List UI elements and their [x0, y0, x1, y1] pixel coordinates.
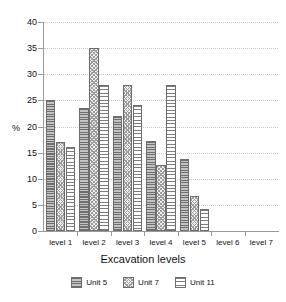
x-axis-tick: [178, 231, 179, 236]
y-axis-tick: [38, 153, 44, 154]
plot-area: [44, 22, 278, 231]
legend-item: Unit 7: [123, 277, 159, 288]
bar: [123, 85, 133, 231]
legend-swatch-icon: [71, 277, 82, 288]
y-axis-tick-label: 35: [27, 44, 37, 53]
bar: [166, 85, 176, 231]
y-axis-tick-label: 10: [27, 175, 37, 184]
x-axis-tick-label: level 4: [149, 238, 172, 247]
bar: [46, 100, 56, 231]
y-axis-tick-label: 25: [27, 96, 37, 105]
bar: [133, 105, 143, 231]
x-axis-tick-label: level 1: [49, 238, 72, 247]
x-axis-tick: [144, 231, 145, 236]
y-axis-tick-label: 15: [27, 149, 37, 158]
bar: [89, 48, 99, 231]
x-axis-tick: [111, 231, 112, 236]
y-axis-title: %: [12, 124, 20, 133]
bar: [200, 209, 210, 231]
gridline: [44, 74, 278, 75]
y-axis-tick-label: 40: [27, 18, 37, 27]
bar: [66, 147, 76, 231]
x-axis-title: Excavation levels: [0, 253, 286, 266]
y-axis-tick-label: 20: [27, 123, 37, 132]
x-axis-tick-label: level 2: [83, 238, 106, 247]
y-axis-tick-label: 5: [32, 201, 37, 210]
y-axis-tick: [38, 205, 44, 206]
x-axis-tick-label: level 7: [250, 238, 273, 247]
y-axis-tick-label: 30: [27, 70, 37, 79]
bar: [79, 108, 89, 231]
legend-item: Unit 5: [71, 277, 107, 288]
x-axis-tick-label: level 5: [183, 238, 206, 247]
gridline: [44, 100, 278, 101]
x-axis-tick: [245, 231, 246, 236]
bar: [146, 141, 156, 231]
bar: [190, 196, 200, 231]
legend-item: Unit 11: [175, 277, 215, 288]
y-axis-tick: [38, 74, 44, 75]
legend-swatch-icon: [175, 277, 186, 288]
gridline: [44, 48, 278, 49]
x-axis-tick-label: level 3: [116, 238, 139, 247]
legend-label: Unit 5: [86, 278, 107, 287]
y-axis-tick-label: 0: [32, 227, 37, 236]
y-axis-tick: [38, 22, 44, 23]
x-axis-tick: [77, 231, 78, 236]
bar: [99, 85, 109, 231]
y-axis-tick: [38, 100, 44, 101]
y-axis-tick: [38, 231, 44, 232]
legend-label: Unit 11: [190, 278, 215, 287]
bar: [113, 116, 123, 231]
y-axis-tick: [38, 127, 44, 128]
legend-swatch-icon: [123, 277, 134, 288]
bar: [180, 159, 190, 231]
legend-label: Unit 7: [138, 278, 159, 287]
x-axis-tick-label: level 6: [216, 238, 239, 247]
bar: [156, 165, 166, 231]
x-axis-tick: [211, 231, 212, 236]
y-axis-tick: [38, 48, 44, 49]
bar: [56, 142, 66, 231]
legend: Unit 5Unit 7Unit 11: [0, 277, 286, 288]
y-axis-tick: [38, 179, 44, 180]
gridline: [44, 22, 278, 23]
bar-chart: 0510152025303540 % level 1level 2level 3…: [0, 0, 286, 302]
